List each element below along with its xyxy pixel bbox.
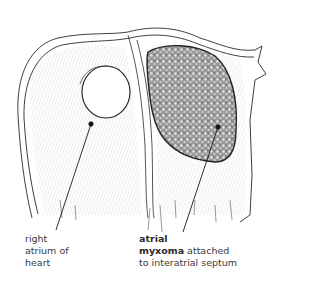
label-myxoma-line2-rest: attached [184,245,229,256]
label-right-atrium-line3: heart [25,257,95,269]
label-atrial-myxoma: atrial myxoma attached to interatrial se… [139,233,289,269]
label-right-atrium-line2: atrium of [25,245,95,257]
left-atrium-chamber [147,44,247,215]
label-myxoma-line3: to interatrial septum [139,257,289,269]
label-myxoma-line1: atrial [139,233,168,244]
label-myxoma-line2-bold: myxoma [139,245,184,256]
right-atrium-chamber [31,45,142,215]
atrial-opening [82,66,130,118]
label-right-atrium: right atrium of heart [25,233,95,269]
label-right-atrium-line1: right [25,233,95,245]
